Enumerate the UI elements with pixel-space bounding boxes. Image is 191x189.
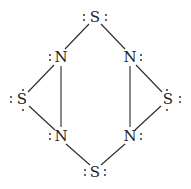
atom-label: N [54,48,67,66]
atom-label: S [163,90,173,108]
bond-s-left-n-ll [29,106,55,130]
atom-n-lower-left: N [49,127,67,145]
atom-label: N [54,127,67,145]
atom-n-upper-left: N [49,48,67,66]
atom-s-top: S [83,8,107,26]
atom-s-bottom: S [84,163,106,181]
s4n4-lewis-structure: S N N S S N [0,0,191,189]
bond-s-top-n-ur [101,24,125,49]
atom-label: N [123,127,136,145]
atom-label: S [90,163,100,181]
bond-s-top-n-ul [65,24,89,49]
bond-n-lr-s-bottom [101,144,125,165]
atoms: S N N S S N [10,8,181,181]
bond-n-ul-s-left [28,65,54,92]
bond-s-right-n-lr [135,106,161,130]
atom-s-left: S [10,89,27,111]
bond-n-ll-s-bottom [66,144,90,165]
atom-label: S [90,8,100,26]
bonds [28,24,162,165]
atom-s-right: S [163,89,181,111]
atom-n-lower-right: N [123,127,141,145]
bond-n-ur-s-right [136,65,162,92]
atom-label: N [123,48,136,66]
atom-label: S [17,90,27,108]
atom-n-upper-right: N [123,48,141,66]
